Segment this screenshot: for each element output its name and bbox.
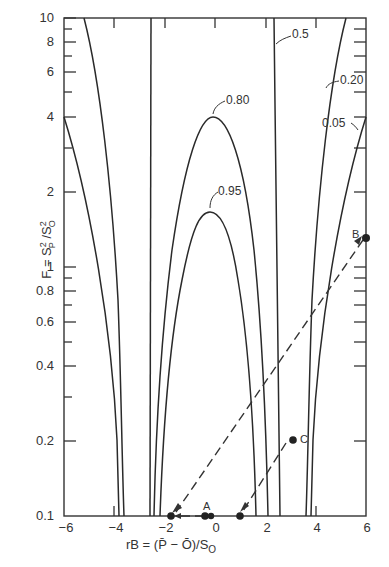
curve-label-0.95: 0.95 [218,184,241,198]
xtick-6: 6 [352,520,382,535]
plot-frame [64,18,366,516]
ytick-0.1: 0.1 [14,508,54,523]
xtick--6: −6 [51,520,81,535]
ytick-8: 8 [14,34,54,49]
xtick-4: 4 [302,520,332,535]
curve-0.5-right [274,18,280,516]
ytick-0.4: 0.4 [14,358,54,373]
curve-label-0.20: 0.20 [340,73,363,87]
x-ticks [114,18,316,516]
dashed-arrows [176,240,363,516]
point-label-A: A [203,500,210,512]
point-label-C: C [300,433,308,445]
curve-label-0.05: 0.05 [322,116,345,130]
ytick-10: 10 [14,10,54,25]
xtick-2: 2 [252,520,282,535]
point-A [201,512,209,520]
curve-0.05-right [311,117,366,516]
xtick-0: 0 [201,520,231,535]
y-axis-title: F = S2P /S2O [38,194,57,304]
ytick-4: 4 [14,109,54,124]
curve-0.20-right [306,18,346,516]
curve-0.05-left [64,117,119,516]
curve-0.80 [154,117,268,516]
curve-label-0.80: 0.80 [226,93,249,107]
ytick-0.6: 0.6 [14,314,54,329]
xtick--4: −4 [101,520,131,535]
point-B [362,234,370,242]
x-axis-title: rB = (P̄ − Ō)/SO [126,537,216,555]
point-C [289,436,297,444]
chart [0,0,389,567]
curve-0.5-left [150,18,151,516]
point-start-right [236,512,244,520]
y-ticks-left [64,18,76,441]
curve-0.95 [160,212,256,516]
ytick-6: 6 [14,64,54,79]
xtick--2: −2 [151,520,181,535]
point-label-B: B [352,228,359,240]
point-A2 [208,513,214,519]
curve-label-0.5: 0.5 [292,27,309,41]
curve-0.20-left [84,18,124,516]
point-start-left [167,512,175,520]
ytick-0.2: 0.2 [14,433,54,448]
